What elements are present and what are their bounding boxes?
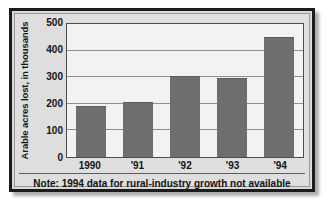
chart-note: Note: 1994 data for rural-industry growt… [21,175,303,192]
bar-91 [123,102,153,157]
y-axis-title: Arable acres lost, in thousands [17,20,33,160]
y-axis-tick-label: 200 [33,99,63,109]
y-axis-tick-label: 500 [33,18,63,28]
bar-slot [161,24,208,157]
x-axis-tick-label: '93 [209,160,257,171]
x-axis-tick-label: '91 [114,160,162,171]
bar-series [67,24,303,157]
note-separator [19,173,305,174]
y-axis-title-text: Arable acres lost, in thousands [20,21,31,159]
y-axis-tick-label: 300 [33,72,63,82]
bar-93 [217,78,247,157]
chart-figure: Arable acres lost, in thousands 01002003… [9,8,315,192]
y-axis-tick-label: 400 [33,45,63,55]
chart-panel: Arable acres lost, in thousands 01002003… [14,13,310,187]
plot-area [66,23,304,158]
y-axis-tick-label: 0 [33,153,63,163]
bar-slot [209,24,256,157]
bar-slot [67,24,114,157]
bar-1990 [76,106,106,157]
bar-slot [256,24,303,157]
bar-94 [264,37,294,157]
y-axis-tick-labels: 0100200300400500 [32,23,63,158]
bar-92 [170,76,200,157]
x-axis-tick-label: 1990 [66,160,114,171]
x-axis-tick-label: '94 [256,160,304,171]
x-axis-tick-labels: 1990'91'92'93'94 [66,160,304,171]
bar-slot [114,24,161,157]
x-axis-tick-label: '92 [161,160,209,171]
y-axis-tick-label: 100 [33,126,63,136]
